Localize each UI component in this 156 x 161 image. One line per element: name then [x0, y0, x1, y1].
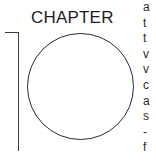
body-text-line: v: [143, 47, 156, 63]
body-text-line: t: [143, 16, 156, 32]
chapter-number-digit-one: [5, 32, 19, 151]
body-text-line: a: [143, 0, 156, 16]
chapter-label: CHAPTER: [31, 9, 114, 26]
body-text-line: a: [143, 94, 156, 110]
body-text-column: a t t v v c a s - f: [143, 0, 156, 156]
body-text-line: t: [143, 31, 156, 47]
body-text-line: v: [143, 62, 156, 78]
body-text-line: c: [143, 78, 156, 94]
body-text-line: f: [143, 140, 156, 156]
chapter-number-digit-zero: [27, 33, 134, 140]
body-text-line: s: [143, 109, 156, 125]
body-text-line: -: [143, 125, 156, 141]
